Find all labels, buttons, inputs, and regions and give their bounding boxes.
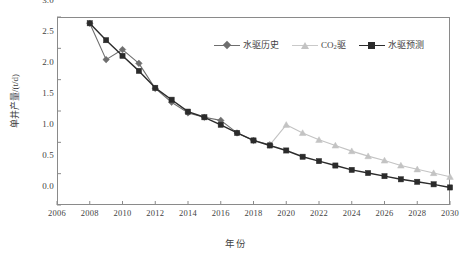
- y-tick-1.0: 1.0: [24, 120, 54, 129]
- legend-item-water-forecast[interactable]: 水驱预测: [359, 40, 424, 51]
- legend-label-co2: CO2驱: [321, 40, 346, 51]
- y-tick-0.0: 0.0: [24, 182, 54, 191]
- triangle-icon: [292, 40, 318, 51]
- legend-item-water-history[interactable]: 水驱历史: [214, 40, 279, 51]
- chart-legend: 水驱历史 CO2驱 水驱预测: [214, 38, 424, 52]
- y-axis-tick-labels: 3.0 2.5 2.0 1.5 1.0 0.5 0.0: [16, 0, 54, 188]
- chart-figure: 3.0 2.5 2.0 1.5 1.0 0.5 0.0 单井产量/(t/d) 2…: [0, 0, 471, 268]
- y-tick-2.0: 2.0: [24, 58, 54, 67]
- y-tick-2.5: 2.5: [24, 27, 54, 36]
- x-tick-2030: 2030: [430, 209, 470, 218]
- y-axis-title: 单井产量/(t/d): [10, 56, 20, 146]
- legend-item-co2[interactable]: CO2驱: [292, 40, 346, 51]
- diamond-icon: [214, 40, 240, 51]
- square-icon: [359, 40, 385, 51]
- y-tick-3.0: 3.0: [24, 0, 54, 5]
- y-tick-1.5: 1.5: [24, 89, 54, 98]
- x-axis-title: 年份: [0, 236, 471, 250]
- legend-label-water-history: 水驱历史: [243, 40, 279, 50]
- y-tick-0.5: 0.5: [24, 151, 54, 160]
- x-axis-tick-labels: 2006 2008 2010 2012 2014 2016 2018 2020 …: [57, 209, 450, 223]
- legend-label-water-forecast: 水驱预测: [388, 40, 424, 50]
